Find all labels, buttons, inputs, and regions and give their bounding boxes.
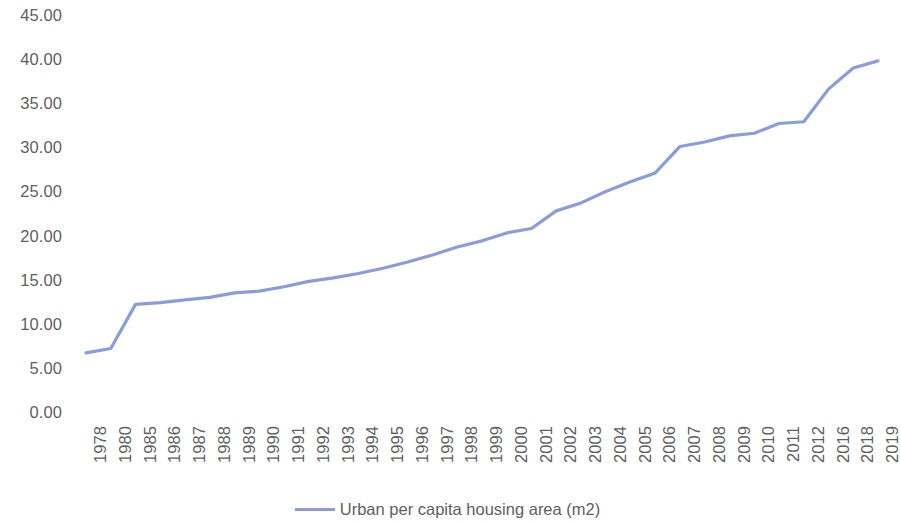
- x-axis-tick-label: 2019: [884, 426, 901, 463]
- y-axis-tick-label: 0.00: [0, 404, 62, 421]
- x-axis-tick-label: 2004: [612, 426, 629, 463]
- x-axis-tick-label: 1987: [191, 426, 208, 463]
- legend-label: Urban per capita housing area (m2): [340, 500, 600, 518]
- x-axis-tick-label: 2012: [810, 426, 827, 463]
- x-axis-tick-label: 1986: [166, 426, 183, 463]
- y-axis-tick-label: 10.00: [0, 316, 62, 333]
- x-axis-tick-label: 2018: [859, 426, 876, 463]
- y-axis-tick-label: 35.00: [0, 95, 62, 112]
- x-axis-tick-label: 2005: [637, 426, 654, 463]
- series-line: [86, 61, 878, 353]
- x-axis-tick-label: 2011: [785, 426, 802, 462]
- x-axis-tick-label: 1997: [439, 426, 456, 463]
- x-axis-tick-label: 1990: [265, 426, 282, 463]
- x-axis-tick-label: 2008: [711, 426, 728, 463]
- legend-line-swatch-icon: [295, 508, 335, 511]
- y-axis-tick-label: 25.00: [0, 183, 62, 200]
- y-axis: 45.0040.0035.0030.0025.0020.0015.0010.00…: [0, 0, 66, 430]
- y-axis-tick-label: 30.00: [0, 139, 62, 156]
- x-axis-tick-label: 1989: [241, 426, 258, 463]
- x-axis-tick-label: 1998: [463, 426, 480, 463]
- plot-area: [70, 0, 890, 420]
- series-canvas: [70, 0, 890, 420]
- y-axis-tick-label: 15.00: [0, 272, 62, 289]
- x-axis: 1978198019851986198719881989199019911992…: [70, 420, 890, 492]
- x-axis-tick-label: 1996: [414, 426, 431, 463]
- x-axis-tick-label: 1993: [340, 426, 357, 463]
- x-axis-tick-label: 2001: [538, 426, 555, 463]
- x-axis-tick-label: 1980: [117, 426, 134, 463]
- x-axis-tick-label: 2006: [661, 426, 678, 463]
- x-axis-tick-label: 2009: [736, 426, 753, 463]
- x-axis-tick-label: 1985: [142, 426, 159, 463]
- x-axis-tick-label: 2010: [760, 426, 777, 463]
- legend-item[interactable]: Urban per capita housing area (m2): [295, 500, 600, 518]
- y-axis-tick-label: 45.00: [0, 7, 62, 24]
- x-axis-tick-label: 1995: [389, 426, 406, 463]
- x-axis-tick-label: 1978: [92, 426, 109, 463]
- x-axis-tick-label: 1992: [315, 426, 332, 463]
- x-axis-tick-label: 2003: [587, 426, 604, 463]
- x-axis-tick-label: 2016: [835, 426, 852, 463]
- y-axis-tick-label: 40.00: [0, 51, 62, 68]
- x-axis-tick-label: 1994: [364, 426, 381, 463]
- y-axis-tick-label: 5.00: [0, 360, 62, 377]
- chart-legend: Urban per capita housing area (m2): [0, 494, 895, 524]
- x-axis-tick-label: 2007: [686, 426, 703, 463]
- x-axis-tick-label: 2002: [562, 426, 579, 463]
- y-axis-tick-label: 20.00: [0, 228, 62, 245]
- x-axis-tick-label: 1999: [488, 426, 505, 463]
- x-axis-tick-label: 1988: [216, 426, 233, 463]
- x-axis-tick-label: 1991: [290, 426, 307, 463]
- x-axis-tick-label: 2000: [513, 426, 530, 463]
